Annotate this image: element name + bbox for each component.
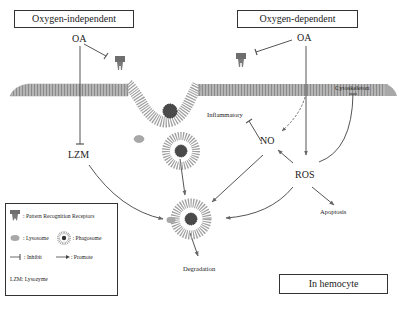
inflammatory-label: Inflammatory bbox=[207, 111, 243, 118]
cytoskeleton-label: Cytoskeleton bbox=[335, 84, 369, 91]
phagolysosome bbox=[167, 203, 208, 235]
oxygen-dependent-label: Oxygen-dependent bbox=[259, 13, 335, 24]
phagosome bbox=[166, 136, 196, 166]
receptor-right bbox=[236, 53, 246, 84]
receptor-left bbox=[115, 56, 125, 84]
legend-lysosome: : Lysosome : Phagosome bbox=[10, 231, 101, 245]
no-label: NO bbox=[260, 135, 274, 146]
inhibit-icon bbox=[10, 254, 22, 260]
oa-right-label: OA bbox=[297, 32, 311, 43]
pathogen-engulfing bbox=[163, 104, 177, 118]
ros-label: ROS bbox=[295, 169, 314, 180]
oxygen-dependent-box: Oxygen-dependent bbox=[237, 10, 358, 28]
apoptosis-label: Apoptosis bbox=[320, 208, 346, 215]
receptor-icon bbox=[10, 210, 20, 221]
legend-lzm: LZM: Lysozyme bbox=[10, 276, 48, 282]
legend-prr: : Pattern Recognition Receptors bbox=[10, 210, 94, 221]
location-label: In hemocyte bbox=[309, 278, 359, 289]
location-box: In hemocyte bbox=[279, 274, 388, 294]
lysosome bbox=[134, 136, 144, 143]
hemocyte-diagram: Oxygen-independent Oxygen-dependent In h… bbox=[0, 0, 399, 309]
degradation-label: Degradation bbox=[183, 265, 215, 272]
lzm-label: LZM bbox=[68, 149, 89, 160]
promote-icon bbox=[56, 254, 70, 260]
oxygen-independent-box: Oxygen-independent bbox=[14, 10, 134, 28]
phagosome-icon bbox=[57, 231, 71, 245]
lysosome-icon bbox=[10, 234, 20, 242]
legend: : Pattern Recognition Receptors : Lysoso… bbox=[5, 203, 118, 296]
oxygen-independent-label: Oxygen-independent bbox=[32, 13, 116, 24]
legend-inhibit: : Inhibit : Promote bbox=[10, 254, 93, 260]
oa-left-label: OA bbox=[72, 33, 86, 44]
